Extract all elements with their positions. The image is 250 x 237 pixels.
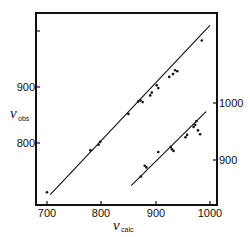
data-point [46, 191, 49, 194]
x-tick-700: 700 [38, 207, 56, 219]
data-point [174, 69, 177, 72]
left-y-tick-800: 800 [17, 137, 35, 149]
data-point [184, 136, 187, 139]
data-point [192, 126, 195, 129]
right-y-tick-labels: 900 1000 [219, 97, 243, 166]
data-point [197, 129, 200, 132]
data-point [99, 141, 102, 144]
data-point [170, 146, 173, 149]
data-point [139, 99, 142, 102]
data-point [155, 84, 158, 87]
data-point [151, 91, 154, 94]
x-tick-1000: 1000 [198, 207, 222, 219]
data-point [89, 149, 92, 152]
data-point [127, 113, 130, 116]
data-point [195, 120, 198, 123]
fit-line-2 [131, 112, 206, 186]
x-tick-800: 800 [92, 207, 110, 219]
data-point [137, 100, 140, 103]
data-point [172, 73, 175, 76]
data-point [149, 94, 152, 97]
right-y-tick-900: 900 [219, 154, 237, 166]
data-point [157, 151, 160, 154]
scatter-chart: 700 800 900 1000 800 900 900 1000 ν calc… [0, 0, 250, 237]
y-axis-symbol: ν [10, 105, 17, 121]
x-tick-900: 900 [147, 207, 165, 219]
x-axis-tick-labels: 700 800 900 1000 [38, 207, 222, 219]
data-point [141, 101, 144, 104]
x-axis-subscript: calc [121, 226, 134, 233]
plot-frame [36, 13, 217, 205]
data-point [168, 76, 171, 79]
x-axis-title: ν calc [113, 217, 134, 233]
data-point [97, 143, 100, 146]
data-point [176, 70, 179, 73]
data-point [186, 134, 189, 137]
fit-line-1 [50, 25, 210, 194]
x-axis-symbol: ν [113, 217, 120, 233]
data-point [201, 39, 204, 42]
data-point [140, 175, 143, 178]
data-point [157, 87, 160, 90]
left-y-tick-900: 900 [17, 81, 35, 93]
right-y-tick-1000: 1000 [219, 97, 243, 109]
data-point [172, 150, 175, 153]
fit-lines [50, 25, 210, 194]
y-axis-title: ν obs [10, 105, 30, 122]
data-point [199, 133, 202, 136]
data-point [194, 123, 197, 126]
data-point [145, 166, 148, 169]
y-axis-subscript: obs [18, 115, 30, 122]
